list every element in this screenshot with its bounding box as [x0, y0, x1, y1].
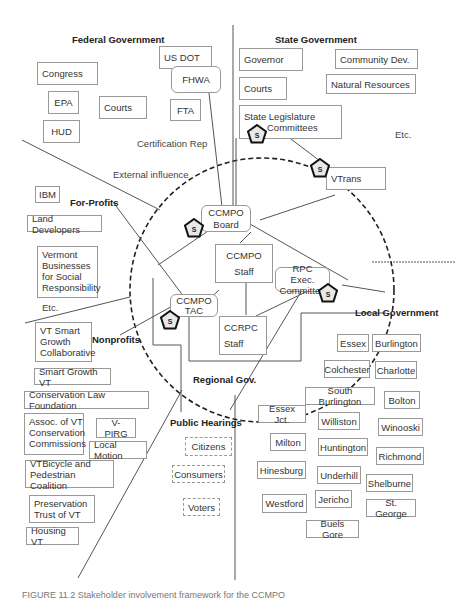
label-external-influence: External influence — [113, 169, 189, 180]
box-huntington: Huntington — [318, 438, 368, 456]
box-vermont-businesses: Vermont Businesses for Social Responsibi… — [37, 246, 98, 298]
text-ccmpo-staff-2: Staff — [226, 264, 261, 280]
box-consumers: Consumers — [172, 465, 225, 483]
text-ccmpo-staff-1: CCMPO — [226, 248, 261, 264]
box-fhwa: FHWA — [171, 66, 221, 93]
box-south-burlington: South Burlington — [305, 387, 375, 405]
box-v-pirg: V-PIRG — [96, 418, 136, 438]
box-ccmpo-staff: CCMPOStaff — [215, 244, 273, 283]
box-hinesburg: Hinesburg — [257, 461, 306, 479]
box-voters: Voters — [183, 498, 220, 516]
box-burlington: Burlington — [372, 334, 421, 352]
box-vt-smart-growth-collaborative: VT Smart Growth Collaborative — [35, 322, 92, 362]
box-citizens: Citizens — [185, 437, 232, 456]
box-williston: Williston — [318, 412, 360, 430]
figure-caption: FIGURE 11.2 Stakeholder involvement fram… — [22, 590, 285, 600]
text-rpc-1: RPC Exec. — [280, 263, 326, 285]
stakeholder-pentagon-icon: S — [310, 158, 330, 178]
text-ccmpo-board-2: Board — [208, 219, 243, 231]
box-richmond: Richmond — [376, 447, 424, 465]
section-state-government: State Government — [275, 34, 357, 45]
section-for-profits: For-Profits — [70, 197, 119, 208]
box-state-courts: Courts — [239, 77, 287, 100]
svg-text:S: S — [168, 318, 173, 325]
box-jericho: Jericho — [315, 490, 352, 508]
box-federal-courts: Courts — [99, 96, 147, 119]
box-fta: FTA — [170, 99, 201, 121]
box-underhill: Underhill — [317, 466, 361, 484]
box-ccrpc-staff: CCRPCStaff — [219, 316, 267, 355]
box-winooski: Winooski — [378, 418, 423, 436]
box-community-dev: Community Dev. — [335, 49, 418, 69]
label-certification-rep: Certification Rep — [137, 138, 207, 149]
section-public-hearings: Public Hearings — [170, 417, 242, 428]
section-regional-gov: Regional Gov. — [193, 374, 256, 385]
text-state-legislature: State Legislature — [244, 111, 337, 122]
svg-text:S: S — [192, 226, 197, 233]
box-ccmpo-board: CCMPOBoard — [201, 205, 251, 232]
stakeholder-pentagon-icon: S — [160, 310, 180, 330]
box-milton: Milton — [270, 433, 306, 451]
box-shelburne: Shelburne — [366, 474, 413, 492]
section-federal-government: Federal Government — [72, 34, 164, 45]
section-nonprofits: Nonprofits — [92, 334, 140, 345]
text-ccrpc-staff-2: Staff — [224, 336, 258, 352]
box-land-developers: Land Developers — [27, 215, 102, 232]
stakeholder-pentagon-icon: S — [318, 283, 338, 303]
stakeholder-pentagon-icon: S — [247, 124, 267, 144]
box-preservation-trust-vt: Preservation Trust of VT — [29, 495, 95, 523]
section-local-government: Local Government — [355, 307, 438, 318]
box-westford: Westford — [262, 494, 307, 513]
box-essex: Essex — [337, 334, 369, 352]
label-for-profits-etc: Etc. — [42, 302, 58, 313]
box-conservation-law-foundation: Conservation Law Foundation — [24, 391, 149, 409]
box-ibm: IBM — [35, 186, 60, 203]
box-bolton: Bolton — [384, 391, 420, 409]
box-housing-vt: Housing VT — [26, 527, 79, 545]
text-ccrpc-staff-1: CCRPC — [224, 320, 258, 336]
box-charlotte: Charlotte — [375, 361, 417, 379]
text-ccmpo-tac-1: CCMPO — [176, 296, 211, 306]
box-epa: EPA — [48, 91, 79, 114]
box-colchester: Colchester — [324, 360, 370, 378]
box-governor: Governor — [239, 48, 303, 71]
box-natural-resources: Natural Resources — [326, 74, 416, 94]
box-essex-jct: Essex Jct. — [258, 405, 306, 423]
box-assoc-vt-conservation-commissions: Assoc. of VT Conservation Commissions — [24, 413, 84, 455]
label-state-etc: Etc. — [395, 129, 411, 140]
box-hud: HUD — [43, 120, 80, 143]
text-ccmpo-tac-2: TAC — [176, 306, 211, 316]
stakeholder-pentagon-icon: S — [184, 218, 204, 238]
svg-text:S: S — [255, 132, 260, 139]
svg-text:S: S — [326, 291, 331, 298]
box-congress: Congress — [37, 62, 98, 85]
box-smart-growth-vt: Smart Growth VT — [34, 368, 111, 385]
text-ccmpo-board-1: CCMPO — [208, 207, 243, 219]
box-st-george: St. George — [366, 499, 416, 517]
svg-text:S: S — [318, 166, 323, 173]
box-vt-bicycle-pedestrian-coalition: VTBicycle and Pedestrian Coalition — [25, 460, 114, 488]
box-vtrans: VTrans — [326, 167, 386, 190]
box-local-motion: Local Motion — [89, 441, 147, 459]
box-buels-gore: Buels Gore — [306, 520, 359, 538]
